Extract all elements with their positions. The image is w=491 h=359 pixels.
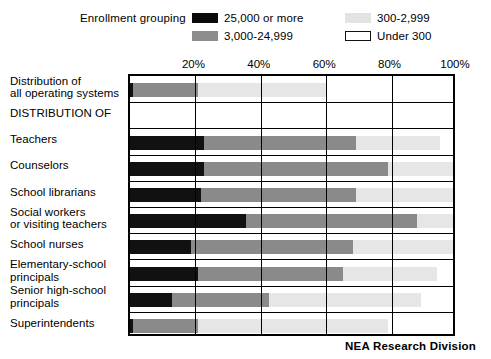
label-line: School librarians bbox=[10, 186, 128, 199]
row-separator bbox=[130, 181, 453, 182]
bar-segment bbox=[440, 136, 453, 150]
table-row bbox=[130, 83, 453, 97]
row-separator bbox=[130, 286, 453, 287]
label-line: School nurses bbox=[10, 238, 128, 251]
label-line: Social workers bbox=[10, 206, 128, 219]
category-axis-labels: Distribution ofall operating systemsDIST… bbox=[0, 74, 128, 336]
row-separator bbox=[130, 102, 453, 103]
legend-entry-label: 3,000-24,999 bbox=[224, 30, 293, 42]
bar-segment bbox=[437, 267, 453, 281]
table-row bbox=[130, 162, 453, 176]
row-label: Social workersor visiting teachers bbox=[10, 206, 128, 231]
legend-entry-25000-or-more: 25,000 or more bbox=[192, 12, 303, 24]
black-swatch-icon bbox=[192, 13, 218, 23]
row-separator bbox=[130, 155, 453, 156]
table-row bbox=[130, 136, 453, 150]
row-label: School nurses bbox=[10, 238, 128, 251]
bar-segment bbox=[198, 83, 327, 97]
table-row bbox=[130, 214, 453, 228]
bar-segment bbox=[204, 162, 388, 176]
row-separator bbox=[130, 259, 453, 260]
gray-swatch-icon bbox=[192, 31, 218, 41]
stacked-bar-rows bbox=[130, 76, 453, 334]
section-header-label: DISTRIBUTION OF bbox=[10, 107, 128, 120]
bar-segment bbox=[421, 293, 453, 307]
label-line: DISTRIBUTION OF bbox=[10, 107, 128, 120]
label-line: Teachers bbox=[10, 133, 128, 146]
bar-segment bbox=[130, 136, 204, 150]
x-axis-tick-labels: 20%40%60%80%100% bbox=[128, 58, 455, 74]
x-tick-label: 20% bbox=[182, 58, 205, 70]
chart-legend: Enrollment grouping 25,000 or more 3,000… bbox=[0, 8, 491, 48]
x-tick-label: 40% bbox=[247, 58, 270, 70]
source-credit: NEA Research Division bbox=[0, 340, 476, 352]
bar-segment bbox=[191, 240, 353, 254]
label-line: principals bbox=[10, 297, 128, 310]
label-line: principals bbox=[10, 271, 128, 284]
table-row bbox=[130, 240, 453, 254]
bar-segment bbox=[353, 240, 453, 254]
row-separator bbox=[130, 233, 453, 234]
bar-segment bbox=[388, 319, 453, 333]
bar-segment bbox=[172, 293, 269, 307]
legend-entry-label: Under 300 bbox=[377, 30, 432, 42]
white-swatch-icon bbox=[345, 31, 371, 41]
table-row bbox=[130, 293, 453, 307]
legend-entry-300-2999: 300-2,999 bbox=[345, 12, 430, 24]
bar-segment bbox=[246, 214, 417, 228]
bar-segment bbox=[327, 83, 453, 97]
bar-segment bbox=[356, 188, 453, 202]
label-line: all operating systems bbox=[10, 87, 128, 100]
table-row bbox=[130, 188, 453, 202]
bar-segment bbox=[130, 188, 201, 202]
row-label: Counselors bbox=[10, 159, 128, 172]
bar-segment bbox=[356, 136, 440, 150]
row-separator bbox=[130, 312, 453, 313]
row-separator bbox=[130, 128, 453, 129]
bar-segment bbox=[133, 319, 198, 333]
table-row bbox=[130, 267, 453, 281]
bar-segment bbox=[130, 293, 172, 307]
label-line: Distribution of bbox=[10, 75, 128, 88]
row-label: School librarians bbox=[10, 186, 128, 199]
row-label: Superintendents bbox=[10, 317, 128, 330]
bar-segment bbox=[201, 188, 356, 202]
light-swatch-icon bbox=[345, 13, 371, 23]
bar-segment bbox=[130, 214, 246, 228]
legend-title: Enrollment grouping bbox=[80, 12, 186, 24]
bar-segment bbox=[343, 267, 437, 281]
row-label: Senior high-schoolprincipals bbox=[10, 284, 128, 309]
bar-segment bbox=[130, 162, 204, 176]
bar-segment bbox=[133, 83, 198, 97]
legend-entry-under-300: Under 300 bbox=[345, 30, 432, 42]
bar-segment bbox=[269, 293, 421, 307]
bar-segment bbox=[417, 214, 453, 228]
x-tick-label: 100% bbox=[440, 58, 469, 70]
bar-segment bbox=[204, 136, 356, 150]
x-tick-label: 60% bbox=[313, 58, 336, 70]
bar-segment bbox=[198, 319, 389, 333]
label-line: Senior high-school bbox=[10, 284, 128, 297]
chart-plot-area bbox=[128, 74, 455, 336]
bar-segment bbox=[388, 162, 453, 176]
bar-segment bbox=[130, 240, 191, 254]
row-separator bbox=[130, 207, 453, 208]
row-label: Distribution ofall operating systems bbox=[10, 75, 128, 100]
label-line: Superintendents bbox=[10, 317, 128, 330]
label-line: or visiting teachers bbox=[10, 218, 128, 231]
table-row bbox=[130, 319, 453, 333]
row-label: Elementary-schoolprincipals bbox=[10, 258, 128, 283]
x-tick-label: 80% bbox=[378, 58, 401, 70]
legend-entry-label: 300-2,999 bbox=[377, 12, 430, 24]
legend-entry-3000-24999: 3,000-24,999 bbox=[192, 30, 293, 42]
bar-segment bbox=[198, 267, 343, 281]
row-label: Teachers bbox=[10, 133, 128, 146]
label-line: Counselors bbox=[10, 159, 128, 172]
label-line: Elementary-school bbox=[10, 258, 128, 271]
legend-entry-label: 25,000 or more bbox=[224, 12, 303, 24]
bar-segment bbox=[130, 267, 198, 281]
